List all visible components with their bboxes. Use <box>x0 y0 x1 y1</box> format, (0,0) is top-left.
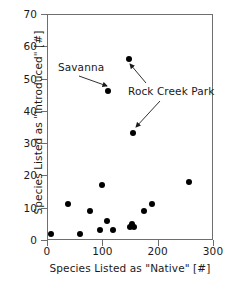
x-tick-label-300: 300 <box>193 246 230 257</box>
y-axis-title: Species Listed as "Introduced" [#] <box>33 23 44 223</box>
y-tick-label-70: 70 <box>9 9 37 20</box>
data-point <box>48 231 54 237</box>
x-tick-label-200: 200 <box>138 246 178 257</box>
plot-area-frame <box>47 14 213 240</box>
annotation-rock-creek-park: Rock Creek Park <box>128 86 214 97</box>
x-tick-label-100: 100 <box>82 246 122 257</box>
x-tick-label-0: 0 <box>27 246 67 257</box>
data-point <box>77 231 83 237</box>
annotation-savanna: Savanna <box>58 62 104 73</box>
data-point <box>104 218 110 224</box>
scatter-plot-figure: 0 10 20 30 40 50 60 70 0 100 200 300 Spe… <box>0 0 230 284</box>
y-tick-70 <box>41 14 47 15</box>
x-axis-title: Species Listed as "Native" [#] <box>30 263 230 274</box>
data-point <box>97 227 103 233</box>
data-point <box>141 208 147 214</box>
y-tick-label-0: 0 <box>9 235 37 246</box>
